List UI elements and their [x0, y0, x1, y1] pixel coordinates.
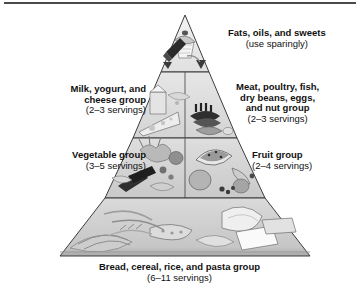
label-meat-servings: (2–3 servings) — [236, 114, 319, 125]
label-fruit-group: Fruit group (2–4 servings) — [252, 150, 312, 171]
label-fruit-servings: (2–4 servings) — [252, 161, 312, 172]
caption-bread-servings: (6–11 servings) — [0, 273, 359, 284]
caption-bread-cereal-rice-pasta: Bread, cereal, rice, and pasta group (6–… — [0, 262, 359, 283]
food-guide-pyramid-figure: Fats, oils, and sweets (use sparingly) M… — [0, 0, 359, 288]
label-fats-oils-sweets: Fats, oils, and sweets (use sparingly) — [228, 28, 326, 49]
tier-bread-cereal-rice-pasta — [60, 198, 310, 256]
egg-icon — [223, 127, 233, 134]
label-vegetable-group: Vegetable group (3–5 servings) — [10, 150, 146, 171]
tier-milk-meat — [133, 72, 237, 138]
nut-icon — [175, 101, 179, 105]
label-milk-yogurt-cheese: Milk, yogurt, and cheese group (2–3 serv… — [14, 84, 146, 116]
label-fats-servings: (use sparingly) — [228, 39, 326, 50]
label-meat-poultry-fish-nuts: Meat, poultry, fish, dry beans, eggs, an… — [236, 82, 319, 125]
label-vegetable-servings: (3–5 servings) — [10, 161, 146, 172]
bread-slice-icon-2 — [262, 218, 296, 234]
label-milk-servings: (2–3 servings) — [14, 105, 146, 116]
tier-fats-oils-sweets — [161, 15, 209, 72]
